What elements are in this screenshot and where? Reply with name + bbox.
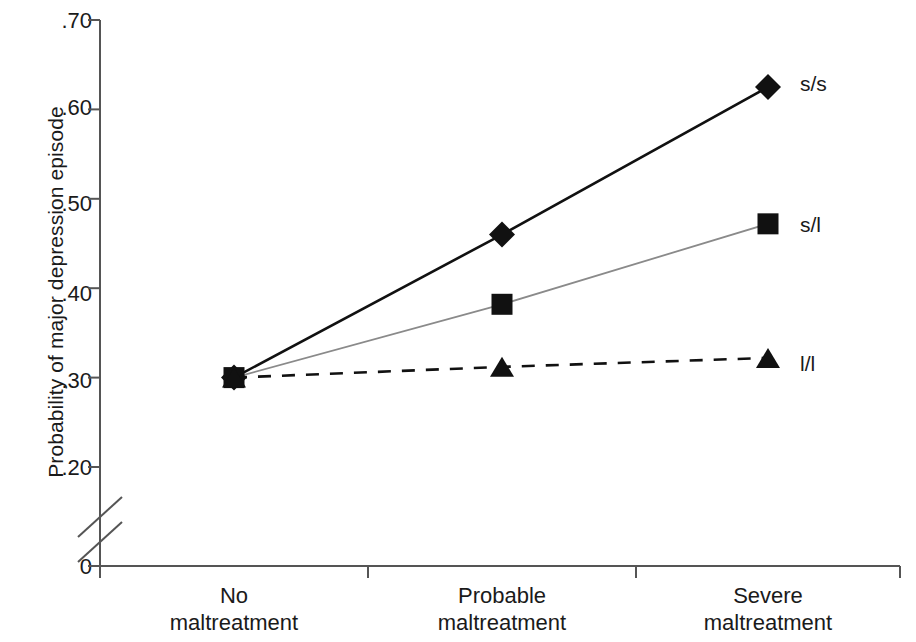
square-marker <box>758 213 779 234</box>
x-tick-marks <box>100 566 900 578</box>
chart-figure: Probability of major depression episode … <box>0 0 916 642</box>
diamond-marker <box>489 222 515 248</box>
series-l-l <box>222 348 780 388</box>
axis-group <box>78 20 900 578</box>
series-s-s <box>221 74 781 391</box>
triangle-marker <box>756 348 780 368</box>
square-marker <box>492 294 513 315</box>
y-tick-marks <box>88 20 100 566</box>
diamond-marker <box>755 74 781 100</box>
plot-area <box>0 0 916 642</box>
series-group <box>221 74 781 391</box>
